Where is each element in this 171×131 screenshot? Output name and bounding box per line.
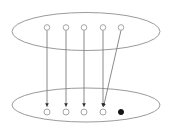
mapping-diagram [0, 0, 171, 131]
bottom-set-unmapped-filled-node [118, 109, 123, 114]
bottom-set-node [100, 109, 106, 115]
top-set-node [100, 25, 106, 31]
bottom-set-node [63, 109, 69, 115]
top-set-ellipse [12, 13, 160, 51]
top-set-node [63, 25, 69, 31]
bottom-set-node [44, 109, 50, 115]
top-set-node [118, 25, 124, 31]
mapping-arrow [103, 30, 121, 107]
bottom-set-node [81, 109, 87, 115]
top-set-node [81, 25, 87, 31]
bottom-set-ellipse [12, 88, 160, 122]
top-set-node [44, 25, 50, 31]
diagram-canvas [0, 0, 171, 131]
